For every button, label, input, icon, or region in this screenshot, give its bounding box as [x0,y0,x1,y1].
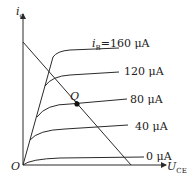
curve-label-120uA: 120 μA [124,66,164,77]
curve-label-0uA: 0 μA [146,151,172,162]
x-axis-label: UCE [167,161,187,175]
q-point-label: Q [70,91,79,102]
curve-label-80uA: 80 μA [130,94,163,105]
saturation-line [23,57,53,165]
curve-label-40uA: 40 μA [135,121,168,132]
curve-40uA [30,125,128,140]
curve-80uA [37,99,127,117]
origin-label: O [11,161,20,172]
curve-label-160uA: iB=160 μA [92,38,150,52]
transistor-characteristics-diagram: ic O UCE Q iB=160 μA 120 μA 80 μA 40 μA … [0,0,193,181]
curve-0uA [23,157,144,165]
y-axis-label: ic [16,6,23,20]
